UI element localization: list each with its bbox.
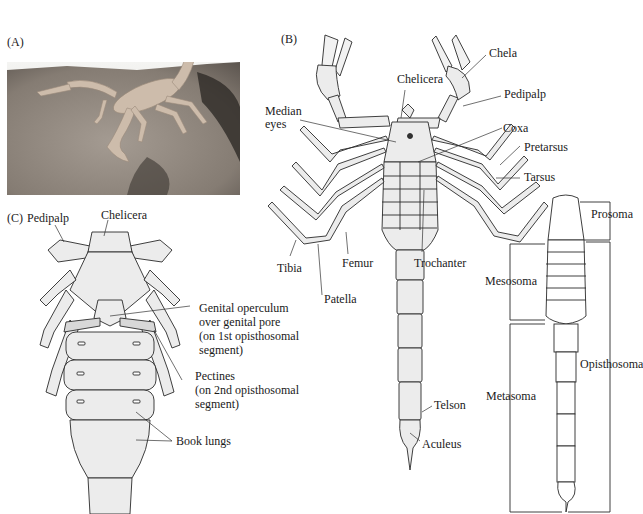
- label-median-eyes: Median eyes: [265, 105, 302, 131]
- label-genital-line2: over genital pore: [199, 315, 280, 329]
- label-pretarsus: Pretarsus: [524, 141, 568, 154]
- label-coxa: Coxa: [503, 122, 528, 135]
- label-genital-line3: (on 1st opisthosomal: [199, 329, 299, 343]
- label-chela: Chela: [489, 47, 517, 60]
- body-regions-outline: [510, 195, 610, 512]
- label-tibia: Tibia: [277, 262, 302, 275]
- label-genital-line1: Genital operculum: [199, 301, 289, 315]
- label-book-lungs: Book lungs: [176, 435, 231, 448]
- label-pectines: Pectines (on 2nd opisthosomal segment): [195, 369, 299, 411]
- label-opisthosoma: Opisthosoma: [580, 358, 643, 371]
- label-aculeus: Aculeus: [422, 438, 461, 451]
- label-mesosoma: Mesosoma: [485, 275, 537, 288]
- label-median-eyes-line2: eyes: [265, 117, 286, 131]
- label-trochanter: Trochanter: [414, 257, 466, 270]
- label-prosoma: Prosoma: [591, 208, 633, 221]
- label-pectines-line1: Pectines: [195, 369, 235, 383]
- label-metasoma: Metasoma: [486, 390, 536, 403]
- ventral-scorpion-illustration: [40, 232, 180, 514]
- label-chelicera-c: Chelicera: [101, 209, 147, 222]
- label-median-eyes-line1: Median: [265, 104, 302, 118]
- label-patella: Patella: [324, 293, 357, 306]
- label-tarsus: Tarsus: [524, 171, 555, 184]
- label-genital-line4: segment): [199, 343, 243, 357]
- label-pedipalp-b: Pedipalp: [504, 88, 546, 101]
- label-pedipalp-c: Pedipalp: [27, 212, 69, 225]
- label-telson: Telson: [434, 399, 466, 412]
- label-chelicera-b: Chelicera: [397, 73, 443, 86]
- panel-c-label: (C): [7, 212, 23, 225]
- label-pectines-line3: segment): [195, 397, 239, 411]
- label-pectines-line2: (on 2nd opisthosomal: [195, 383, 299, 397]
- panel-b-label: (B): [281, 33, 297, 46]
- label-femur: Femur: [342, 257, 373, 270]
- label-genital-operculum: Genital operculum over genital pore (on …: [199, 301, 299, 357]
